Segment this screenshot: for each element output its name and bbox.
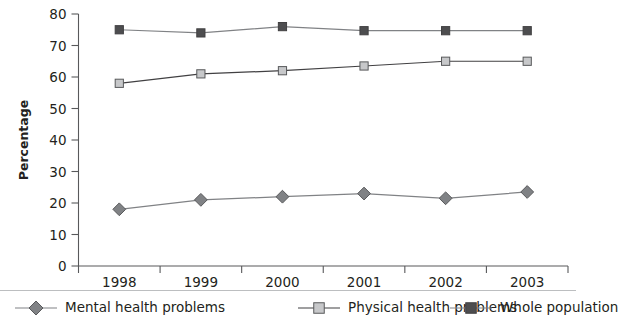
y-axis-tick-label: 20 bbox=[49, 195, 66, 211]
legend-square-marker-icon bbox=[449, 299, 493, 317]
legend-item-1[interactable]: Mental health problems bbox=[14, 293, 225, 323]
data-point-marker bbox=[521, 186, 534, 199]
chart-legend: Mental health problemsPhysical health pr… bbox=[0, 293, 576, 323]
x-axis-tick-label: 1999 bbox=[184, 274, 218, 290]
series-line bbox=[119, 27, 527, 33]
legend-item-label: Mental health problems bbox=[65, 301, 225, 315]
x-axis-tick-label: 2003 bbox=[510, 274, 544, 290]
data-point-marker bbox=[197, 70, 205, 78]
data-point-marker bbox=[278, 67, 286, 75]
y-axis: 01020304050607080 bbox=[49, 6, 78, 274]
x-axis-tick-label: 2002 bbox=[428, 274, 462, 290]
y-axis-tick-label: 70 bbox=[49, 38, 66, 54]
series-2 bbox=[115, 57, 531, 87]
x-axis-tick-label: 2001 bbox=[347, 274, 381, 290]
y-axis-title: Percentage bbox=[16, 100, 31, 180]
y-axis-tick-label: 0 bbox=[58, 258, 67, 274]
series-1 bbox=[113, 186, 534, 216]
series-line bbox=[119, 61, 527, 83]
data-point-marker bbox=[439, 192, 452, 205]
legend-item-3[interactable]: Whole population bbox=[449, 293, 618, 323]
y-axis-tick-label: 50 bbox=[49, 101, 66, 117]
data-point-marker bbox=[115, 79, 123, 87]
x-axis-tick-label: 1998 bbox=[102, 274, 136, 290]
data-point-marker bbox=[360, 27, 368, 35]
y-axis-tick-label: 40 bbox=[49, 132, 66, 148]
x-axis-tick-labels: 199819992000200120022003 bbox=[102, 274, 544, 290]
legend-item-label: Whole population bbox=[500, 301, 618, 315]
y-axis-tick-label: 80 bbox=[49, 6, 66, 22]
data-point-marker bbox=[358, 187, 371, 200]
legend-square-marker-icon bbox=[297, 299, 341, 317]
data-point-marker bbox=[360, 62, 368, 70]
data-point-marker bbox=[442, 57, 450, 65]
data-point-marker bbox=[442, 27, 450, 35]
data-point-marker bbox=[115, 26, 123, 34]
x-axis-tick-label: 2000 bbox=[265, 274, 299, 290]
series-3 bbox=[115, 23, 531, 38]
y-axis-tick-label: 10 bbox=[49, 227, 66, 243]
series-layer bbox=[113, 23, 534, 216]
data-point-marker bbox=[278, 23, 286, 31]
data-point-marker bbox=[194, 193, 207, 206]
x-axis: 199819992000200120022003 bbox=[79, 266, 569, 290]
data-point-marker bbox=[276, 190, 289, 203]
data-point-marker bbox=[523, 27, 531, 35]
data-point-marker bbox=[197, 29, 205, 37]
y-axis-tick-label: 60 bbox=[49, 69, 66, 85]
data-point-marker bbox=[113, 203, 126, 216]
data-point-marker bbox=[523, 57, 531, 65]
series-line bbox=[119, 192, 527, 209]
y-axis-tick-label: 30 bbox=[49, 164, 66, 180]
legend-diamond-marker-icon bbox=[14, 299, 58, 317]
x-axis-ticks bbox=[79, 266, 569, 273]
y-axis-ticks: 01020304050607080 bbox=[49, 6, 78, 274]
